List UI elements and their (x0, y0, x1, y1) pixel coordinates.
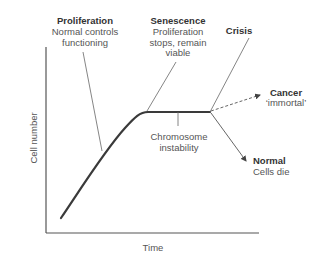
cancer-subtitle: ‘immortal’ (266, 97, 307, 108)
y-axis-label: Cell number (28, 112, 39, 163)
crisis-leader (210, 38, 249, 112)
cell-growth-diagram: Proliferation Normal controls functionin… (0, 0, 327, 261)
proliferation-line1: Normal controls (52, 26, 119, 37)
chromosome-line1: Chromosome (150, 131, 207, 142)
senescence-title: Senescence (151, 15, 206, 26)
senescence-line1: Proliferation (153, 26, 204, 37)
senescence-leader (147, 62, 176, 111)
proliferation-title: Proliferation (57, 15, 113, 26)
x-axis-label: Time (143, 242, 164, 253)
normal-subtitle: Cells die (253, 166, 289, 177)
proliferation-leader (83, 52, 102, 151)
chromosome-line2: instability (159, 142, 198, 153)
normal-arrow (211, 113, 246, 161)
cancer-arrow (211, 95, 260, 111)
normal-title: Normal (253, 155, 286, 166)
crisis-title: Crisis (226, 25, 252, 36)
proliferation-line2: functioning (62, 37, 108, 48)
senescence-line3: viable (166, 47, 191, 58)
growth-curve (61, 112, 210, 218)
